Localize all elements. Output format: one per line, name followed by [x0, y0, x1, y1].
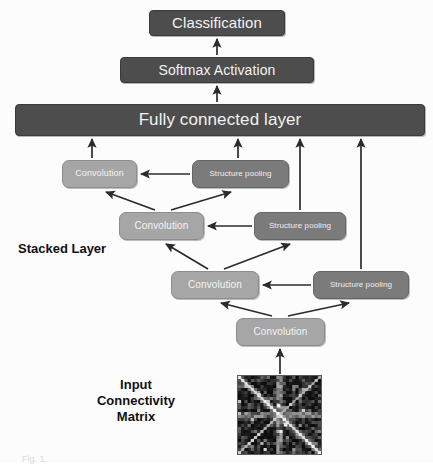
- node-softmax-activation-label: Softmax Activation: [159, 63, 276, 78]
- node-classification[interactable]: Classification: [149, 10, 285, 36]
- node-structure-pooling-row2[interactable]: Structure pooling: [254, 212, 346, 240]
- node-softmax-activation[interactable]: Softmax Activation: [120, 57, 314, 83]
- edge-conv4-to-conv3: [221, 303, 272, 316]
- node-structure-pooling-row2-label: Structure pooling: [269, 222, 331, 230]
- stacked-layer-label: Stacked Layer: [18, 241, 106, 257]
- node-convolution-row3-label: Convolution: [188, 280, 242, 291]
- node-classification-label: Classification: [172, 15, 262, 31]
- node-convolution-row1-label: Convolution: [75, 169, 124, 178]
- node-convolution-row2[interactable]: Convolution: [119, 212, 204, 240]
- node-convolution-row2-label: Convolution: [135, 221, 189, 232]
- node-convolution-row3[interactable]: Convolution: [171, 271, 259, 299]
- connectivity-matrix-heatmap: [238, 376, 321, 454]
- node-structure-pooling-row1-label: Structure pooling: [209, 170, 271, 178]
- node-convolution-row4-label: Convolution: [254, 327, 308, 338]
- input-connectivity-matrix-label: Input Connectivity Matrix: [62, 377, 210, 425]
- edge-conv3-to-pool2: [224, 244, 290, 269]
- figure-caption: Fig. 1.: [0, 454, 433, 465]
- edge-conv4-to-pool3: [288, 303, 349, 316]
- node-structure-pooling-row3-label: Structure pooling: [330, 281, 392, 289]
- node-fully-connected-layer[interactable]: Fully connected layer: [15, 104, 425, 136]
- node-structure-pooling-row3[interactable]: Structure pooling: [313, 271, 409, 299]
- edge-conv2-to-conv1: [106, 192, 155, 210]
- node-fully-connected-layer-label: Fully connected layer: [139, 111, 302, 129]
- edge-conv3-to-conv2: [166, 244, 208, 269]
- node-convolution-row4[interactable]: Convolution: [236, 318, 325, 346]
- input-connectivity-matrix: [237, 375, 322, 455]
- edge-conv2-to-pool1: [171, 192, 231, 210]
- node-convolution-row1[interactable]: Convolution: [62, 160, 137, 188]
- node-structure-pooling-row1[interactable]: Structure pooling: [192, 160, 289, 188]
